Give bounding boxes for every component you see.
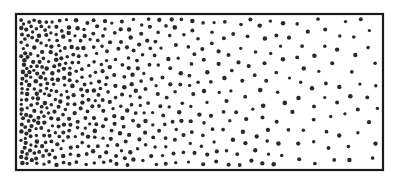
- particle-dot: [126, 163, 130, 167]
- particle-dot: [218, 91, 221, 94]
- particle-dot: [39, 25, 43, 29]
- particle-dot: [49, 103, 53, 107]
- particle-dot: [288, 76, 291, 79]
- particle-dot: [156, 92, 160, 96]
- particle-dot: [97, 79, 101, 83]
- particle-dot: [65, 55, 68, 58]
- particle-dot: [35, 102, 39, 106]
- particle-dot: [42, 57, 46, 61]
- particle-dot: [173, 25, 178, 30]
- particle-dot: [51, 149, 54, 152]
- particle-dot: [148, 63, 152, 67]
- particle-dot: [26, 88, 29, 91]
- particle-dot: [20, 91, 24, 95]
- particle-dot: [122, 85, 127, 90]
- particle-dot: [38, 75, 43, 80]
- particle-dot: [47, 111, 50, 114]
- particle-dot: [236, 60, 240, 64]
- particle-dot: [210, 41, 214, 45]
- particle-dot: [20, 87, 23, 90]
- particle-dot: [35, 161, 38, 164]
- particle-dot: [297, 157, 301, 161]
- particle-dot: [79, 87, 83, 91]
- particle-dot: [302, 66, 306, 70]
- particle-dot: [327, 146, 331, 150]
- particle-dot: [317, 70, 320, 73]
- particle-dot: [313, 162, 317, 166]
- particle-dot: [94, 122, 98, 126]
- particle-dot: [20, 161, 25, 166]
- particle-dot: [35, 139, 40, 144]
- particle-dot: [263, 61, 267, 65]
- particle-dot: [76, 126, 80, 130]
- particle-dot: [68, 72, 72, 76]
- particle-dot: [94, 99, 97, 102]
- particle-dot: [202, 89, 206, 93]
- particle-dot: [67, 31, 71, 35]
- particle-dot: [168, 82, 172, 86]
- particle-dot: [269, 19, 272, 22]
- particle-dot: [74, 135, 77, 138]
- particle-dot: [310, 86, 315, 91]
- particle-dot: [188, 84, 191, 87]
- particle-dot: [205, 101, 208, 104]
- particle-dot: [35, 38, 39, 42]
- particle-dot: [261, 104, 266, 109]
- particle-dot: [57, 124, 61, 128]
- particle-dot: [29, 75, 32, 78]
- particle-dot: [180, 101, 184, 105]
- particle-dot: [20, 33, 24, 37]
- particle-dot: [347, 145, 351, 149]
- particle-dot: [47, 25, 50, 28]
- particle-dot: [62, 76, 66, 80]
- particle-dot: [42, 114, 46, 118]
- particle-dot: [50, 89, 53, 92]
- particle-dot: [24, 131, 28, 135]
- particle-dot: [251, 108, 254, 111]
- particle-dot: [254, 50, 258, 54]
- particle-dot: [323, 96, 326, 99]
- particle-dot: [125, 108, 129, 112]
- particle-dot: [215, 149, 219, 153]
- particle-dot: [376, 107, 379, 110]
- particle-dot: [86, 110, 90, 114]
- particle-dot: [61, 130, 65, 134]
- particle-dot: [74, 18, 79, 23]
- particle-dot: [200, 145, 203, 148]
- particle-dot: [163, 123, 167, 127]
- particle-dot: [280, 154, 284, 158]
- particle-dot: [19, 139, 22, 142]
- particle-dot: [88, 122, 91, 125]
- particle-dot: [44, 149, 48, 153]
- particle-dot: [50, 20, 53, 23]
- particle-dot: [100, 69, 104, 73]
- particle-dot: [26, 106, 29, 109]
- particle-dot: [217, 49, 221, 53]
- particle-dot: [128, 150, 132, 154]
- particle-dot: [192, 151, 196, 155]
- particle-dot: [348, 94, 353, 99]
- particle-dot: [323, 27, 327, 31]
- particle-dot: [154, 84, 157, 87]
- particle-dot: [24, 113, 28, 117]
- particle-dot: [120, 116, 124, 120]
- particle-dot: [240, 79, 244, 83]
- particle-dot: [44, 33, 48, 37]
- particle-dot: [132, 49, 136, 53]
- particle-dot: [64, 62, 68, 66]
- particle-dot: [243, 141, 247, 145]
- particle-dot: [27, 83, 32, 88]
- particle-dot: [47, 93, 51, 97]
- particle-dot: [153, 145, 156, 148]
- particle-dot: [57, 105, 61, 109]
- particle-dot: [22, 58, 27, 63]
- particle-dot: [29, 52, 33, 56]
- particle-dot: [76, 46, 80, 50]
- particle-dot: [114, 154, 118, 158]
- particle-dot: [325, 130, 329, 134]
- particle-dot: [27, 70, 31, 74]
- particle-dot: [50, 71, 54, 75]
- particle-dot: [151, 135, 155, 139]
- particle-dot: [231, 138, 235, 142]
- particle-dot: [55, 142, 59, 146]
